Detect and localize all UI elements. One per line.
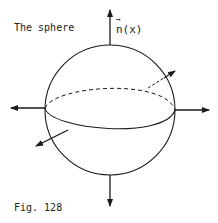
vector-arrow-mark: →	[116, 15, 121, 24]
figure-caption: Fig. 128	[14, 202, 62, 213]
normal-vector-label: → n(x)	[116, 23, 143, 36]
normal-arrow-back-right-hidden	[148, 78, 164, 88]
equator-front	[45, 108, 175, 129]
figure-title: The sphere	[14, 22, 74, 33]
normal-arrow-front-left	[36, 130, 68, 146]
normal-arrow-back-right	[164, 71, 175, 78]
equator-back-dashed	[45, 88, 175, 110]
sphere-figure	[0, 0, 218, 223]
sphere-outline	[45, 45, 175, 175]
